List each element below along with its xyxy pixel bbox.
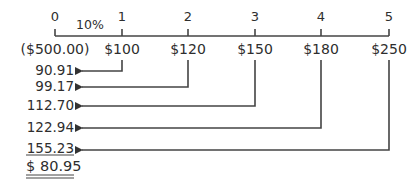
npv-total: 80.95 bbox=[40, 159, 82, 174]
cash-flow-4: $180 bbox=[303, 42, 339, 56]
arrow-period-3 bbox=[82, 60, 255, 106]
present-value-4: 122.94 bbox=[14, 121, 74, 135]
present-value-3: 112.70 bbox=[14, 99, 74, 113]
cash-flow-1: $100 bbox=[104, 42, 140, 56]
period-label-0: 0 bbox=[51, 10, 59, 23]
period-label-2: 2 bbox=[184, 10, 192, 23]
cash-flow-0: ($500.00) bbox=[21, 42, 90, 56]
cash-flow-2: $120 bbox=[170, 42, 206, 56]
arrow-period-1 bbox=[82, 60, 122, 71]
present-value-5: 155.23 bbox=[14, 142, 74, 156]
period-label-4: 4 bbox=[317, 10, 325, 23]
period-label-1: 1 bbox=[118, 10, 126, 23]
arrow-period-5 bbox=[82, 60, 389, 150]
period-label-5: 5 bbox=[385, 10, 393, 23]
discount-rate-label: 10% bbox=[76, 19, 104, 32]
present-value-1: 90.91 bbox=[14, 64, 74, 78]
npv-timeline-diagram: 0 1 2 3 4 5 10% ($500.00) $100 $120 $150… bbox=[0, 0, 415, 192]
period-label-3: 3 bbox=[251, 10, 259, 23]
cash-flow-5: $250 bbox=[371, 42, 407, 56]
present-value-2: 99.17 bbox=[14, 80, 74, 94]
arrow-period-2 bbox=[82, 60, 188, 87]
cash-flow-3: $150 bbox=[237, 42, 273, 56]
npv-currency: $ bbox=[26, 159, 35, 174]
